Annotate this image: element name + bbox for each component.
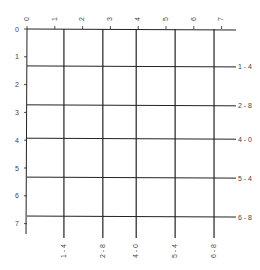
top-axis — [27, 29, 236, 30]
left-axis — [26, 29, 27, 234]
top-axis-tick-label: 0 — [23, 17, 30, 21]
horizontal-grid-line — [27, 138, 236, 139]
left-axis-tick-label: 6 — [15, 192, 19, 199]
top-axis-tick-label: 6 — [190, 17, 197, 21]
left-axis-tick-label: 2 — [15, 81, 19, 88]
left-axis-tick-label: 0 — [15, 26, 19, 33]
horizontal-grid-line — [27, 66, 236, 67]
left-axis-tick-label: 4 — [15, 137, 19, 144]
left-axis-tick-label: 5 — [15, 165, 19, 172]
axes: 0123456701234567 — [15, 17, 236, 234]
vertical-line-label: 2 - 8 — [99, 244, 106, 258]
vertical-grid-lines: 1 - 42 - 84 - 05 - 46 - 8 — [60, 29, 217, 258]
left-axis-tick-label: 1 — [15, 53, 19, 60]
horizontal-line-label: 6 - 8 — [238, 214, 252, 221]
horizontal-grid-lines: 1 - 42 - 84 - 05 - 46 - 8 — [27, 63, 252, 220]
left-axis-tick-label: 7 — [15, 220, 19, 227]
horizontal-line-label: 4 - 0 — [238, 136, 252, 143]
horizontal-line-label: 1 - 4 — [238, 63, 252, 70]
top-axis-tick-label: 2 — [78, 17, 85, 21]
top-axis-tick-label: 5 — [162, 17, 169, 21]
top-axis-tick-label: 1 — [51, 17, 58, 21]
grid-diagram: 0123456701234567 1 - 42 - 84 - 05 - 46 -… — [0, 0, 260, 270]
horizontal-grid-line — [27, 177, 236, 178]
vertical-line-label: 1 - 4 — [60, 244, 67, 258]
left-axis-tick-label: 3 — [15, 109, 19, 116]
vertical-line-label: 6 - 8 — [210, 244, 217, 258]
top-axis-tick-label: 3 — [106, 17, 113, 21]
horizontal-grid-line — [27, 216, 236, 217]
top-axis-tick-label: 7 — [217, 17, 224, 21]
vertical-line-label: 5 - 4 — [171, 244, 178, 258]
horizontal-grid-line — [27, 105, 236, 106]
vertical-line-label: 4 - 0 — [132, 244, 139, 258]
horizontal-line-label: 2 - 8 — [238, 102, 252, 109]
horizontal-line-label: 5 - 4 — [238, 175, 252, 182]
top-axis-tick-label: 4 — [134, 17, 141, 21]
